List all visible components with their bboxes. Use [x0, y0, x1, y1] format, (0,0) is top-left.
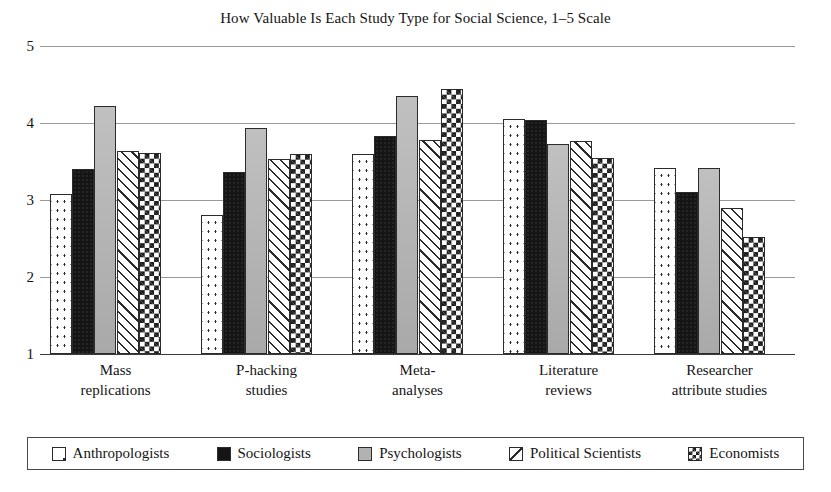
bar: [374, 136, 396, 354]
dots-swatch-icon: [52, 447, 66, 461]
bar: [139, 153, 161, 354]
legend-item-label: Political Scientists: [530, 445, 641, 462]
bar-group: [201, 46, 313, 354]
legend-item-sociologists[interactable]: Sociologists: [217, 445, 311, 462]
legend-item-political-scientists[interactable]: Political Scientists: [509, 445, 641, 462]
plot-area: [40, 46, 795, 354]
legend-item-economists[interactable]: Economists: [688, 445, 779, 462]
y-axis-tick-label: 5: [14, 38, 34, 55]
gray-swatch-icon: [358, 447, 372, 461]
bar: [570, 141, 592, 354]
bar: [592, 158, 614, 354]
x-axis-label-line: attribute studies: [626, 380, 813, 400]
legend-item-label: Anthropologists: [73, 445, 170, 462]
bar: [290, 154, 312, 354]
bar-group: [654, 46, 766, 354]
bar: [441, 89, 463, 354]
bar-group: [50, 46, 162, 354]
bar: [94, 106, 116, 354]
bar-chart: How Valuable Is Each Study Type for Soci…: [0, 0, 831, 492]
bar: [50, 194, 72, 354]
bar: [743, 237, 765, 354]
bar: [547, 144, 569, 354]
y-axis-tick-label: 2: [14, 269, 34, 286]
bar: [419, 140, 441, 354]
y-axis-tick-label: 3: [14, 192, 34, 209]
bar: [698, 168, 720, 354]
bar: [503, 119, 525, 354]
chart-legend: AnthropologistsSociologistsPsychologists…: [27, 437, 804, 470]
y-axis-tick-label: 4: [14, 115, 34, 132]
x-axis-label-line: Researcher: [626, 360, 813, 380]
bar-group: [352, 46, 464, 354]
bar: [201, 215, 223, 354]
bar: [525, 120, 547, 354]
bar: [223, 172, 245, 354]
x-axis-label: Researcherattribute studies: [626, 360, 813, 400]
bar: [721, 208, 743, 354]
chart-title: How Valuable Is Each Study Type for Soci…: [0, 10, 831, 27]
legend-item-label: Psychologists: [379, 445, 462, 462]
bar: [72, 169, 94, 354]
checker-swatch-icon: [688, 447, 702, 461]
bar: [117, 151, 139, 354]
bar: [654, 168, 676, 354]
legend-item-anthropologists[interactable]: Anthropologists: [52, 445, 170, 462]
bar: [268, 159, 290, 354]
bar: [245, 128, 267, 354]
diagonal-swatch-icon: [509, 447, 523, 461]
legend-item-label: Sociologists: [238, 445, 311, 462]
bar: [676, 192, 698, 354]
black-swatch-icon: [217, 447, 231, 461]
bar: [352, 154, 374, 354]
bar: [396, 96, 418, 354]
legend-item-psychologists[interactable]: Psychologists: [358, 445, 462, 462]
legend-item-label: Economists: [709, 445, 779, 462]
y-axis-tick-label: 1: [14, 346, 34, 363]
bar-group: [503, 46, 615, 354]
